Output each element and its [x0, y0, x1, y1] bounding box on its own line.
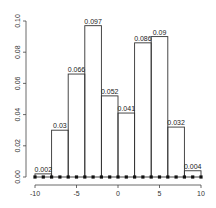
bar-value-label: 0.052: [101, 88, 119, 95]
data-point: [133, 175, 136, 178]
data-point: [100, 175, 103, 178]
histogram-bar: [52, 130, 69, 177]
data-point: [141, 175, 144, 178]
y-tick-label: 0.00: [14, 170, 21, 184]
data-point: [183, 175, 186, 178]
bar-value-label: 0.09: [153, 29, 167, 36]
histogram-bar: [101, 96, 118, 177]
y-tick-label: 0.04: [14, 108, 21, 122]
data-point: [166, 175, 169, 178]
data-point: [175, 175, 178, 178]
histogram-bar: [68, 74, 85, 177]
histogram-bars: [35, 26, 201, 177]
histogram-bar: [151, 37, 168, 177]
data-point: [199, 175, 202, 178]
data-point: [125, 175, 128, 178]
bar-value-label: 0.086: [134, 35, 152, 42]
data-point: [42, 175, 45, 178]
histogram-bar: [135, 43, 152, 177]
y-axis: 0.000.020.040.060.080.10: [14, 14, 26, 184]
y-tick-label: 0.08: [14, 45, 21, 59]
data-point: [50, 175, 53, 178]
data-point: [158, 175, 161, 178]
data-point: [150, 175, 153, 178]
data-point: [75, 175, 78, 178]
bar-value-label: 0.004: [184, 163, 202, 170]
baseline-points: [33, 175, 202, 178]
x-tick-label: 0: [116, 190, 120, 197]
x-tick-label: 10: [197, 190, 205, 197]
data-point: [83, 175, 86, 178]
bar-value-label: 0.032: [167, 119, 185, 126]
data-point: [58, 175, 61, 178]
y-tick-label: 0.06: [14, 76, 21, 90]
histogram-chart: 0.000.020.040.060.080.10 -10-50510 0.002…: [0, 0, 216, 208]
x-tick-label: -5: [73, 190, 79, 197]
bar-value-label: 0.066: [68, 66, 86, 73]
data-point: [116, 175, 119, 178]
x-tick-label: 5: [158, 190, 162, 197]
bar-value-label: 0.041: [118, 105, 136, 112]
x-axis: -10-50510: [30, 185, 205, 197]
bar-value-label: 0.03: [53, 122, 67, 129]
x-tick-label: -10: [30, 190, 40, 197]
data-point: [67, 175, 70, 178]
bar-value-label: 0.002: [35, 166, 53, 173]
bar-value-label: 0.097: [84, 18, 102, 25]
histogram-bar: [118, 113, 135, 177]
data-point: [92, 175, 95, 178]
histogram-bar: [168, 127, 185, 177]
y-tick-label: 0.02: [14, 139, 21, 153]
data-point: [108, 175, 111, 178]
data-point: [33, 175, 36, 178]
histogram-bar: [85, 26, 102, 177]
data-point: [191, 175, 194, 178]
y-tick-label: 0.10: [14, 14, 21, 28]
